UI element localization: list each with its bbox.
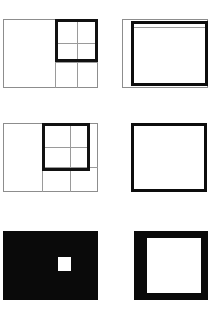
black-block xyxy=(3,231,98,300)
figure-bottom-left xyxy=(3,231,98,300)
figure-top-left xyxy=(3,19,98,88)
inner-guide-horizontal xyxy=(134,27,205,28)
bold-square-inset xyxy=(131,21,208,86)
guide-line-horizontal xyxy=(55,62,98,63)
inner-cross-horizontal xyxy=(58,43,95,44)
figure-middle-right xyxy=(131,123,207,192)
bold-square-outline xyxy=(131,123,207,192)
white-square-large xyxy=(147,238,201,293)
figure-top-right xyxy=(122,19,208,88)
inner-cross-horizontal xyxy=(45,147,87,148)
white-square-small xyxy=(58,257,71,271)
figure-panel xyxy=(0,0,215,310)
figure-bottom-right xyxy=(134,231,208,300)
figure-middle-left xyxy=(3,123,98,192)
bold-square-overlay xyxy=(55,19,98,62)
